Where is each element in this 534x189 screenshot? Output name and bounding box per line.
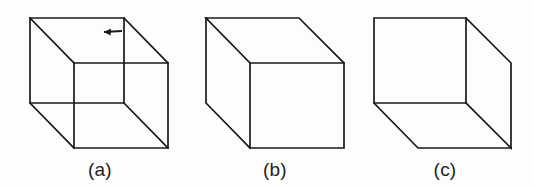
cube-b-opaque bbox=[206, 18, 344, 148]
cube-a-edge-top-left bbox=[30, 18, 74, 63]
cube-b-front-face bbox=[250, 63, 344, 148]
cube-a-edge-bottom-left bbox=[30, 103, 74, 148]
cube-c-bottom-face bbox=[374, 103, 511, 148]
cube-b-left-face bbox=[206, 18, 250, 148]
cube-b-top-face bbox=[206, 18, 344, 63]
cube-c-opaque bbox=[374, 18, 511, 148]
caption-b: (b) bbox=[235, 160, 315, 179]
vertex-pointer-arrow-icon bbox=[104, 29, 122, 36]
necker-cube-figure: (a) (b) (c) bbox=[0, 0, 534, 189]
cube-a-wireframe bbox=[30, 18, 168, 148]
cube-c-right-face bbox=[466, 18, 511, 148]
caption-c: (c) bbox=[405, 160, 485, 179]
cube-c-front-face bbox=[374, 18, 466, 103]
cube-a-edge-bottom-right bbox=[124, 103, 168, 148]
cube-a-edge-top-right bbox=[124, 18, 168, 63]
cube-a-front-face bbox=[74, 63, 168, 148]
caption-a: (a) bbox=[60, 160, 140, 179]
